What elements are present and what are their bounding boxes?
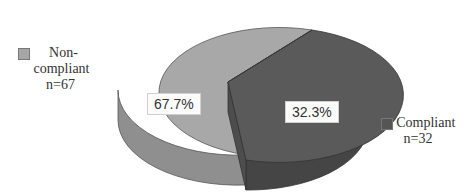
compliant-swatch-icon bbox=[381, 118, 393, 130]
noncompliant-swatch-icon bbox=[18, 48, 30, 60]
legend-compliant-label: Compliant bbox=[396, 115, 455, 130]
legend-noncompliant-line2: compliant bbox=[30, 61, 93, 77]
legend-compliant: Compliant n=32 bbox=[373, 115, 463, 147]
legend-noncompliant: Non- compliant n=67 bbox=[18, 45, 93, 93]
noncompliant-percent-label: 67.7% bbox=[147, 93, 201, 115]
legend-noncompliant-n: n=67 bbox=[28, 77, 93, 93]
pie-chart bbox=[0, 0, 464, 192]
compliant-percent-label: 32.3% bbox=[285, 101, 339, 123]
legend-compliant-n: n=32 bbox=[373, 131, 463, 147]
legend-noncompliant-line1: Non- bbox=[49, 45, 78, 60]
